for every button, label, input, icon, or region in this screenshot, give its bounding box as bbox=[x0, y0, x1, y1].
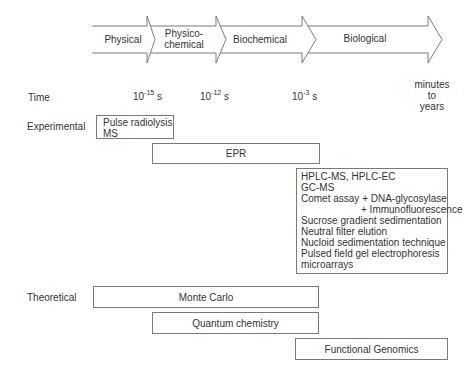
time-base: 10 bbox=[292, 91, 303, 102]
method-item: + Immunofluorescence bbox=[301, 204, 447, 215]
method-item: GC-MS bbox=[301, 182, 447, 193]
box-line: Pulse radiolysis bbox=[103, 117, 173, 128]
time-mark-1: 10-15 s bbox=[133, 91, 162, 102]
time-unit: s bbox=[221, 91, 229, 102]
method-item: Comet assay + DNA-glycosylase bbox=[301, 193, 447, 204]
monte-carlo-box: Monte Carlo bbox=[93, 286, 319, 308]
time-text: to bbox=[409, 90, 455, 101]
time-base: 10 bbox=[200, 91, 211, 102]
stage-label-text: Physical bbox=[104, 34, 141, 45]
method-item: Neutral filter elution bbox=[301, 226, 447, 237]
time-mark-4: minutes to years bbox=[409, 79, 455, 112]
stage-biochemical: Biochemical bbox=[228, 34, 292, 45]
method-item: Nucloid sedimentation technique bbox=[301, 237, 447, 248]
stage-label-text: Biochemical bbox=[233, 34, 287, 45]
stage-label-text: Biological bbox=[344, 33, 387, 44]
time-unit: s bbox=[309, 91, 317, 102]
epr-box: EPR bbox=[152, 143, 320, 164]
time-mark-3: 10-3 s bbox=[292, 91, 317, 102]
method-item: HPLC-MS, HPLC-EC bbox=[301, 171, 447, 182]
row-label-theoretical: Theoretical bbox=[27, 292, 76, 303]
time-exp: -12 bbox=[211, 89, 221, 96]
functional-genomics-box: Functional Genomics bbox=[295, 338, 448, 360]
time-mark-2: 10-12 s bbox=[200, 91, 229, 102]
box-label: Functional Genomics bbox=[325, 344, 419, 355]
stage-physicochemical: Physico- chemical bbox=[155, 28, 213, 50]
method-item: Sucrose gradient sedimentation bbox=[301, 215, 447, 226]
quantum-chemistry-box: Quantum chemistry bbox=[152, 312, 319, 334]
box-label: EPR bbox=[226, 148, 247, 159]
pulse-radiolysis-box: Pulse radiolysis MS bbox=[96, 115, 174, 139]
row-label-time: Time bbox=[28, 92, 50, 103]
stage-label-text: chemical bbox=[155, 39, 213, 50]
stage-physical: Physical bbox=[100, 34, 146, 45]
box-label: Monte Carlo bbox=[179, 292, 233, 303]
biological-methods-box: HPLC-MS, HPLC-EC GC-MS Comet assay + DNA… bbox=[296, 168, 448, 274]
stage-label-text: Physico- bbox=[155, 28, 213, 39]
time-exp: -15 bbox=[144, 89, 154, 96]
time-text: years bbox=[409, 101, 455, 112]
box-line: MS bbox=[103, 128, 173, 139]
stage-biological: Biological bbox=[335, 33, 395, 44]
box-label: Quantum chemistry bbox=[192, 318, 279, 329]
method-item: Pulsed field gel electrophoresis bbox=[301, 248, 447, 259]
time-base: 10 bbox=[133, 91, 144, 102]
time-unit: s bbox=[154, 91, 162, 102]
time-text: minutes bbox=[409, 79, 455, 90]
row-label-experimental: Experimental bbox=[27, 121, 85, 132]
method-item: microarrays bbox=[301, 259, 447, 270]
